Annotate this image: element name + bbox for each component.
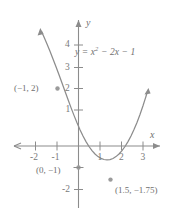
point-vertex-label: (1.5, −1.75)	[115, 186, 158, 195]
equation-rhs: − 2x − 1	[98, 47, 135, 57]
x-tick-label-1: 1	[98, 153, 103, 163]
y-tick-label-3: 3	[65, 63, 70, 73]
point-vertex-marker	[108, 177, 112, 181]
x-axis-label: x	[150, 130, 154, 140]
y-tick-label-1: 1	[66, 105, 71, 115]
parabola-graph-figure: y x y = x2 − 2x − 1 -2 -1 1 2 3 4 3 2 1 …	[0, 0, 173, 220]
equation-lhs: y = x	[75, 47, 95, 57]
x-tick-label-2: 2	[119, 153, 124, 163]
y-tick-label-4: 4	[65, 40, 70, 50]
y-tick-label-neg2: -2	[62, 185, 70, 195]
x-tick-label-3: 3	[141, 153, 146, 163]
equation-label: y = x2 − 2x − 1	[75, 46, 135, 58]
x-axis-arrow	[153, 143, 160, 149]
curve-right-arrow	[145, 88, 151, 95]
y-axis-label: y	[86, 18, 90, 28]
point-neg1-2-label: (−1, 2)	[14, 84, 39, 93]
x-tick-label-neg1: -1	[52, 153, 60, 163]
y-tick-label-2: 2	[65, 84, 70, 94]
point-y-intercept-label: (0, −1)	[36, 166, 61, 175]
point-neg1-2-marker	[55, 86, 59, 90]
x-tick-label-neg2: -2	[30, 153, 38, 163]
data-point-markers	[55, 86, 112, 182]
y-axis-arrow	[76, 20, 82, 27]
